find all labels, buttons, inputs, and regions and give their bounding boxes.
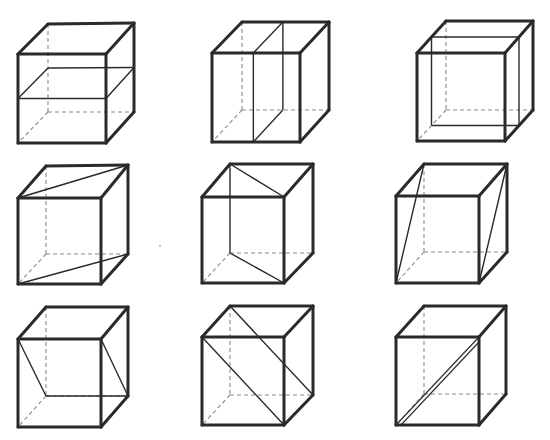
cube-7 <box>18 307 128 427</box>
hidden-edge <box>202 253 230 283</box>
cube-2 <box>212 22 329 142</box>
cube-edge <box>479 306 506 337</box>
section-line <box>18 68 48 99</box>
cube-1 <box>18 23 134 143</box>
cube-edge <box>284 395 313 425</box>
hidden-edge <box>18 112 48 143</box>
cube-edge <box>284 306 313 337</box>
cube-edge <box>101 165 128 198</box>
cube-edge <box>106 112 134 143</box>
section-line <box>230 164 284 197</box>
cube-edge <box>300 22 329 53</box>
cube-9 <box>396 306 506 425</box>
section-line <box>18 254 128 284</box>
cube-edge <box>479 394 506 425</box>
cube-edge <box>48 23 134 24</box>
hidden-edge <box>18 396 46 427</box>
cube-edge <box>18 24 48 54</box>
section-line <box>397 338 478 424</box>
hidden-edge <box>212 110 242 142</box>
cube-3 <box>417 21 533 141</box>
cube-edge <box>300 110 329 142</box>
cube-edge <box>212 22 242 53</box>
section-line <box>48 68 134 69</box>
cube-6 <box>396 164 507 283</box>
cube-edge <box>101 396 128 427</box>
cube-edge <box>46 165 128 166</box>
section-line <box>230 253 284 283</box>
cube-sections-figure <box>0 0 550 440</box>
figure-canvas <box>0 0 550 440</box>
section-line <box>253 22 283 53</box>
section-line <box>101 339 128 396</box>
cube-edge <box>284 253 313 283</box>
cube-edge <box>18 307 46 339</box>
hidden-edge <box>202 395 230 425</box>
cube-edge <box>101 307 128 339</box>
cube-edge <box>202 164 230 197</box>
section-line <box>18 339 46 396</box>
speck-dot <box>159 245 161 247</box>
section-line <box>401 342 479 425</box>
section-line <box>253 110 283 142</box>
cube-4 <box>18 165 128 284</box>
cube-8 <box>202 306 313 425</box>
cube-edge <box>396 306 424 337</box>
cube-edge <box>284 164 313 197</box>
cube-edge <box>106 23 134 54</box>
section-line <box>106 68 134 99</box>
cube-edge <box>202 306 230 337</box>
cube-5 <box>202 164 313 283</box>
cube-edge <box>101 254 128 284</box>
section-line <box>18 165 128 198</box>
